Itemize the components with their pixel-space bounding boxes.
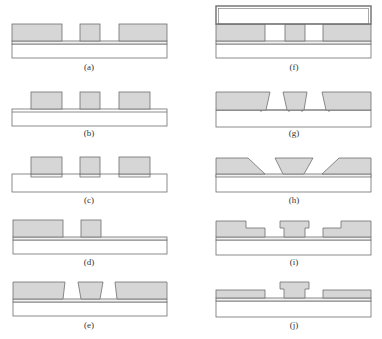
panel-d (13, 220, 167, 254)
thin-layer (13, 299, 167, 302)
layer-segment-center (80, 174, 100, 177)
panel-label-g: (g) (289, 128, 300, 138)
panel-label-c: (c) (84, 195, 94, 205)
panel-a (12, 24, 167, 58)
trapezoid-center (275, 158, 313, 174)
panel-e (13, 282, 167, 316)
layer-segment-right (119, 174, 150, 177)
resist-block-center (80, 92, 100, 109)
trapezoid-left (216, 158, 265, 174)
substrate (216, 240, 371, 255)
stepped-block-right (323, 221, 371, 237)
resist-block-center (80, 24, 100, 41)
panel-label-j: (j) (290, 320, 299, 330)
panel-i (216, 221, 371, 255)
thin-layer (216, 298, 371, 301)
panel-label-h: (h) (289, 195, 300, 205)
panel-b (12, 92, 167, 126)
panel-c (12, 157, 167, 192)
resist-block-left (216, 24, 265, 41)
thin-layer (13, 237, 167, 240)
resist-block-center (81, 220, 101, 237)
resist-block-right (119, 92, 150, 109)
process-diagram: (a) (b) (c) (d) (e) (f) (g) (h) (i) (j) (0, 0, 382, 339)
substrate (13, 302, 167, 316)
resist-block-right (322, 92, 371, 110)
resist-block-left (13, 220, 63, 237)
resist-block-right (323, 24, 371, 41)
t-block-center (280, 221, 309, 237)
resist-block-left (216, 92, 270, 110)
resist-block-center (78, 282, 103, 299)
resist-block-right (119, 24, 167, 41)
resist-block-center (283, 92, 307, 110)
panel-label-b: (b) (84, 128, 95, 138)
trapezoid-right (322, 158, 371, 174)
thin-layer (216, 41, 371, 44)
panel-g (216, 92, 371, 127)
substrate (216, 301, 371, 317)
resist-block-left (12, 24, 62, 41)
resist-block-center (80, 157, 100, 174)
t-block-center (280, 282, 309, 298)
thin-block-right (323, 290, 371, 298)
thin-block-left (216, 290, 265, 298)
substrate (12, 44, 167, 58)
resist-block-left (31, 157, 62, 174)
substrate (216, 44, 371, 58)
panel-label-e: (e) (84, 320, 94, 330)
layer-segment-left (31, 174, 62, 177)
thin-layer (216, 237, 371, 240)
panel-label-d: (d) (84, 257, 95, 267)
resist-block-left (13, 282, 65, 299)
panel-h (216, 158, 371, 192)
resist-block-right (115, 282, 167, 299)
thin-layer (12, 41, 167, 44)
substrate (12, 109, 167, 126)
substrate (216, 175, 371, 192)
resist-block-center (285, 24, 305, 41)
substrate (216, 110, 371, 127)
stepped-block-left (216, 221, 265, 237)
panel-label-i: (i) (290, 257, 299, 267)
panel-j (216, 282, 371, 317)
panel-label-a: (a) (84, 62, 94, 72)
resist-block-right (119, 157, 150, 174)
thin-layer (216, 174, 371, 177)
panel-label-f: (f) (290, 62, 299, 72)
substrate (13, 240, 167, 254)
resist-block-left (31, 92, 62, 109)
panel-f (216, 6, 371, 58)
